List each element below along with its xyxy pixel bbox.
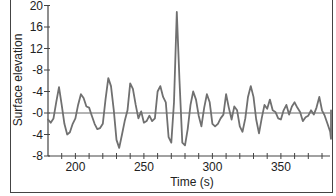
- x-tick-label: 200: [65, 160, 85, 174]
- y-tick-label: -8: [32, 63, 43, 77]
- y-tick-label: -4: [32, 128, 43, 142]
- y-tick-label: 16: [30, 20, 44, 34]
- y-axis-title: Surface elevation: [11, 34, 25, 127]
- y-tick-label: 20: [30, 0, 44, 13]
- x-tick-label: 300: [202, 160, 222, 174]
- y-tick-label: 12: [30, 42, 44, 56]
- surface-elevation-chart: 201612-8-4-0-4-8 200250300350 Time (s) S…: [0, 0, 336, 196]
- y-axis: 201612-8-4-0-4-8: [30, 0, 50, 163]
- y-tick-label: -8: [32, 149, 43, 163]
- x-tick-label: 350: [271, 160, 291, 174]
- x-axis: 200250300350: [48, 153, 330, 174]
- y-tick-label: -4: [32, 85, 43, 99]
- x-tick-label: 250: [134, 160, 154, 174]
- y-tick-label: -0: [32, 106, 43, 120]
- data-line: [48, 12, 331, 148]
- x-axis-title: Time (s): [170, 175, 214, 189]
